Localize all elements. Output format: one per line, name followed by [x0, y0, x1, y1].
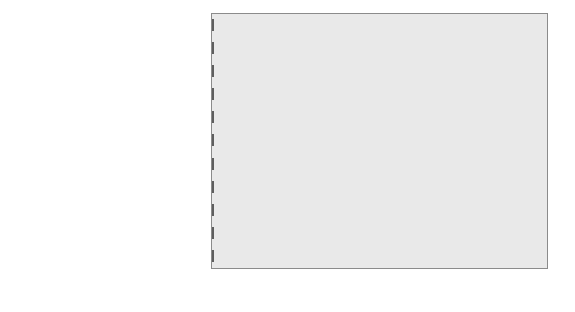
y-axis-label	[0, 153, 200, 176]
bar	[212, 88, 214, 100]
bar	[212, 42, 214, 54]
x-axis	[0, 269, 575, 309]
bar-row	[212, 37, 547, 60]
bar	[212, 134, 214, 146]
bar-row	[212, 176, 547, 199]
y-axis-label	[0, 245, 200, 268]
bar-row	[212, 14, 547, 37]
bar-chart	[0, 0, 575, 312]
bar	[212, 111, 214, 123]
bar-row	[212, 60, 547, 83]
bar-row	[212, 153, 547, 176]
y-axis-label	[0, 83, 200, 106]
bar	[212, 204, 214, 216]
y-axis-label	[0, 176, 200, 199]
bar-row	[212, 83, 547, 106]
bar-row	[212, 199, 547, 222]
y-axis-label	[0, 129, 200, 152]
bar	[212, 227, 214, 239]
bar	[212, 250, 214, 262]
y-axis-category-labels	[0, 14, 200, 268]
y-axis-label	[0, 37, 200, 60]
y-axis-label	[0, 199, 200, 222]
bar-row	[212, 222, 547, 245]
bar-row	[212, 129, 547, 152]
bar	[212, 19, 214, 31]
y-axis-label	[0, 222, 200, 245]
bar	[212, 181, 214, 193]
bars-layer	[212, 14, 547, 268]
bar	[212, 65, 214, 77]
bar	[212, 158, 214, 170]
bar-row	[212, 245, 547, 268]
y-axis-label	[0, 14, 200, 37]
bar-row	[212, 106, 547, 129]
y-axis-label	[0, 106, 200, 129]
y-axis-label	[0, 60, 200, 83]
